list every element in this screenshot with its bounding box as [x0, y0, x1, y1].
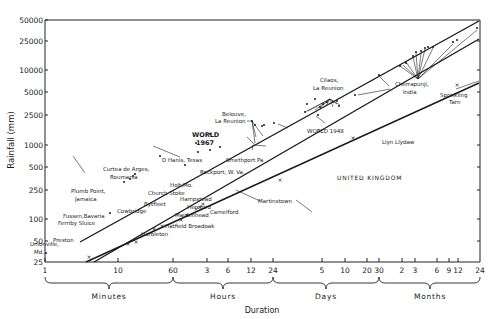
x-tick: 9 [447, 266, 452, 275]
label-cilaos: Cilaos, [320, 77, 338, 83]
x-tick: 3 [413, 266, 418, 275]
label-belouve-reunion: La Reunion [215, 118, 246, 124]
svg-text:×: × [125, 240, 130, 247]
group-label-months: Months [414, 292, 446, 301]
label-plumb-point: Plumb Point, [71, 188, 106, 194]
group-label-days: Days [315, 292, 337, 301]
label-curtea: Curtea de Arges, [103, 166, 150, 173]
label-holt: Holt,Mo. [170, 182, 193, 188]
group-label-hours: Hours [210, 292, 236, 301]
label-preston: Preston [53, 237, 74, 243]
y-tick-2500: 2500 [24, 111, 43, 120]
svg-text:×: × [86, 253, 91, 260]
label-world: WORLD [192, 131, 220, 139]
x-tick: 6 [226, 266, 231, 275]
x-tick: 12 [453, 266, 463, 275]
label-harbleton: Harbleton [141, 231, 169, 237]
x-tick: 24 [475, 266, 485, 275]
label-belouve: Belouve, [222, 111, 246, 117]
pointer-lines [73, 30, 479, 212]
annotation-labels: Unionville, Md. Preston Ferriby Sluice H… [30, 77, 467, 255]
x-tick: 20 [362, 266, 372, 275]
y-tick-10000: 10000 [19, 66, 43, 75]
y-tick-250: 250 [29, 186, 44, 195]
svg-text:×: × [454, 81, 459, 88]
y-tick-1000: 1000 [24, 141, 43, 150]
y-tick-100: 100 [29, 215, 44, 224]
label-bytfleet: Bytfleet [144, 201, 166, 208]
label-tarn: Tarn [448, 99, 461, 105]
x-tick: 5 [320, 266, 325, 275]
label-world-1948: WORLD 1948 [307, 128, 344, 134]
svg-text:×: × [133, 238, 138, 245]
label-maidenhead: Maidenhead [175, 212, 209, 218]
x-tick: 10 [340, 266, 350, 275]
svg-text:×: × [277, 176, 282, 183]
group-label-minutes: Minutes [91, 292, 126, 301]
label-hampstead: Hampstead [180, 196, 212, 203]
rainfall-duration-chart: 50000 25000 10000 5000 2500 1000 500 250… [0, 0, 495, 319]
y-tick-25000: 25000 [19, 37, 43, 46]
label-camelford: Camelford [210, 209, 238, 215]
label-hereford: Hereford [187, 204, 211, 210]
world-1967-label: WORLD 1967 [192, 131, 220, 147]
label-sprinkling: Sprinkling [440, 92, 467, 99]
label-india: India [403, 89, 417, 95]
x-tick: 1 [43, 266, 48, 275]
envelope-lines [80, 21, 479, 262]
label-united-kingdom: UNITED KINGDOM [337, 174, 402, 181]
label-hatfield: Hatfield Broadoak [165, 223, 215, 229]
x-tick: 10 [113, 266, 123, 275]
y-tick-500: 500 [29, 163, 44, 172]
x-tick: 60 [168, 266, 178, 275]
label-dhanis: D Hanis, Texas [162, 157, 202, 163]
y-axis-label: Rainfall (mm) [6, 111, 16, 169]
label-ferriby: Ferriby Sluice [58, 220, 96, 227]
x-tick: 24 [268, 266, 278, 275]
duration-braces [45, 277, 480, 289]
y-tick-50000: 50000 [19, 16, 43, 25]
svg-text:×: × [350, 134, 355, 141]
x-tick: 6 [435, 266, 440, 275]
x-tick: 3 [205, 266, 210, 275]
label-cilaos-reunion: La Reunion [313, 85, 344, 91]
y-tick-5000: 5000 [24, 88, 43, 97]
label-fussen: Fussen,Bavaria [63, 213, 105, 219]
label-llyn-llydaw: Llyn Llydaw [382, 139, 415, 146]
label-jamaica: Jamaica [74, 196, 97, 203]
label-smethport: Smethport Pa [226, 157, 263, 164]
label-unionville-md: Md. [34, 249, 44, 255]
x-tick: 2 [400, 266, 405, 275]
x-tick: 12 [246, 266, 256, 275]
label-roumania: Roumania [110, 174, 138, 180]
x-axis-label: Duration [245, 306, 280, 315]
label-martinstown: Martinstown [258, 198, 292, 204]
label-cherrapunji: Cherrapunji, [395, 81, 429, 88]
x-axis: 1 10 60 3 6 12 24 5 10 20 30 2 3 6 9 12 … [43, 258, 485, 275]
x-tick: 30 [374, 266, 384, 275]
label-cowbridge: Cowbridge [117, 208, 147, 215]
label-rockport: Rockport, W. Va. [200, 169, 245, 176]
svg-text:×: × [159, 222, 164, 229]
label-1967: 1967 [196, 139, 214, 147]
